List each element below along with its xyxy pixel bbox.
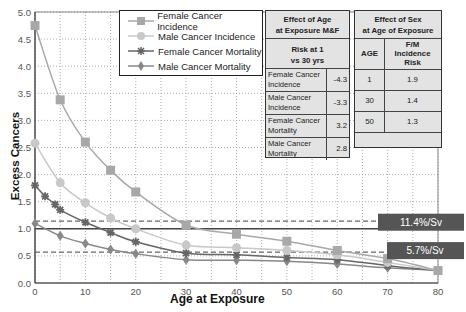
x-tick-label: 20 (130, 286, 141, 297)
col-age-header: AGE (355, 39, 385, 69)
diamond-marker-icon (107, 244, 114, 254)
sex-table-row: 301.4 (355, 91, 441, 112)
star-marker-icon (128, 45, 154, 57)
x-tick-label: 80 (433, 286, 444, 297)
age-table-row: Female CancerMortality3.2 (266, 115, 349, 138)
age-table-row: Female CancerIncidence-4.3 (266, 69, 349, 92)
row-value: -3.3 (326, 92, 349, 114)
row-value: -4.3 (326, 69, 349, 91)
risk-cell: 1.3 (385, 112, 440, 132)
star-marker-icon (182, 249, 190, 257)
diamond-marker-icon (32, 218, 39, 228)
square-marker-icon (232, 230, 241, 239)
square-marker-icon (434, 266, 443, 275)
diamond-marker-icon (128, 60, 154, 72)
star-marker-icon (41, 192, 49, 200)
x-tick-label: 0 (32, 286, 37, 297)
circle-marker-icon (282, 246, 291, 255)
x-axis-label: Age at Exposure (170, 292, 265, 306)
square-marker-icon (31, 21, 40, 30)
circle-marker-icon (182, 241, 191, 250)
legend-item-female-incidence: Female Cancer Incidence (128, 14, 262, 28)
risk-cell: 1.4 (385, 91, 440, 111)
age-effect-table: Effect of Age at Exposure M&F Risk at 1 … (265, 10, 350, 158)
circle-marker-icon (131, 224, 140, 233)
star-marker-icon (132, 238, 140, 246)
svg-text:5.7%/Sv: 5.7%/Sv (406, 245, 443, 256)
legend-item-female-mortality: Female Cancer Mortality (128, 44, 261, 58)
y-tick-label: 1.0 (18, 223, 31, 234)
y-tick-label: 4.5 (18, 34, 31, 45)
sex-table-header-row: AGE F/M Incidence Risk (355, 39, 441, 70)
age-cell: 30 (355, 91, 385, 111)
x-tick-label: 50 (282, 286, 293, 297)
circle-marker-icon (31, 139, 40, 148)
y-tick-label: 0.5 (18, 250, 31, 261)
sex-table-row: 501.3 (355, 112, 441, 133)
col-risk-header: F/M Incidence Risk (385, 40, 440, 67)
sex-table-row: 11.9 (355, 70, 441, 91)
square-marker-icon (56, 95, 65, 104)
circle-marker-icon (128, 30, 154, 42)
y-tick-label: 4.0 (18, 61, 31, 72)
x-tick-label: 70 (382, 286, 393, 297)
row-label: Female CancerIncidence (268, 70, 326, 90)
diamond-marker-icon (82, 238, 89, 248)
star-marker-icon (56, 206, 64, 214)
star-marker-icon (31, 181, 39, 189)
row-label: Male CancerIncidence (268, 93, 326, 113)
age-table-title: Effect of Age at Exposure M&F (266, 11, 349, 39)
legend-item-male-incidence: Male Cancer Incidence (128, 29, 255, 43)
badge-5-7-per-sv: 5.7%/Sv (387, 242, 464, 259)
age-table-subheader: Risk at 1 vs 30 yrs (266, 39, 349, 69)
y-axis-label: Excess Cancers (9, 101, 21, 211)
x-tick-label: 10 (80, 286, 91, 297)
circle-marker-icon (56, 178, 65, 187)
risk-cell: 1.9 (385, 70, 440, 90)
legend: Female Cancer Incidence Male Cancer Inci… (119, 10, 263, 76)
diamond-marker-icon (132, 249, 139, 259)
badge-11-4-per-sv: 11.4%/Sv (378, 214, 464, 231)
row-value: 2.8 (326, 138, 349, 160)
square-marker-icon (106, 166, 115, 175)
age-table-row: Male CancerIncidence-3.3 (266, 92, 349, 115)
legend-item-male-mortality: Male Cancer Mortality (128, 59, 250, 73)
square-marker-icon (128, 15, 153, 27)
x-tick-label: 60 (332, 286, 343, 297)
age-cell: 1 (355, 70, 385, 90)
age-cell: 50 (355, 112, 385, 132)
square-marker-icon (333, 246, 342, 255)
square-marker-icon (81, 138, 90, 147)
square-marker-icon (282, 237, 291, 246)
row-label: Female CancerMortality (268, 116, 326, 136)
circle-marker-icon (106, 213, 115, 222)
circle-marker-icon (232, 243, 241, 252)
star-marker-icon (107, 229, 115, 237)
svg-text:11.4%/Sv: 11.4%/Sv (400, 217, 442, 228)
sex-table-title: Effect of Sex at Age of Exposure (355, 11, 441, 39)
y-tick-label: 5.0 (18, 7, 31, 18)
y-tick-label: 0.0 (18, 278, 31, 289)
star-marker-icon (81, 218, 89, 226)
age-table-row: Male CancerMortality2.8 (266, 138, 349, 160)
circle-marker-icon (81, 198, 90, 207)
row-value: 3.2 (326, 115, 349, 137)
row-label: Male CancerMortality (268, 139, 326, 159)
square-marker-icon (131, 187, 140, 196)
square-marker-icon (182, 221, 191, 230)
y-tick-label: 3.5 (18, 88, 31, 99)
diamond-marker-icon (57, 231, 64, 241)
sex-effect-table: Effect of Sex at Age of Exposure AGE F/M… (354, 10, 442, 148)
